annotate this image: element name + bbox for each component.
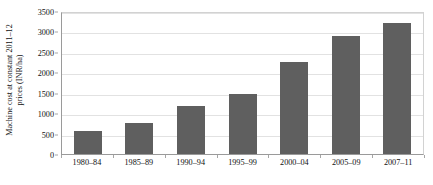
y-axis-title-text: Machine cost at constant 2011–12 prices … [5,24,25,136]
x-axis-tick-label: 1980–84 [61,158,113,167]
y-axis-tick-label: 1500 [38,89,54,98]
y-axis-title: Machine cost at constant 2011–12 prices … [0,0,30,160]
bar-slot [114,13,166,154]
bar-slot [217,13,269,154]
y-axis-tick-mark [55,12,58,13]
x-axis-tick-label: 2000–04 [268,158,320,167]
bar[interactable] [74,131,102,154]
bar-chart-figure: Machine cost at constant 2011–12 prices … [0,0,433,185]
plot-area [61,12,424,155]
x-axis-tick-label: 1995–99 [217,158,269,167]
y-axis-tick-mark [55,52,58,53]
bar-slot [371,13,423,154]
bar-slot [165,13,217,154]
y-axis-tick-mark [55,32,58,33]
y-axis-tick-label: 0 [50,151,54,160]
y-axis-tick-label: 1000 [38,110,54,119]
y-axis-tick-label: 2500 [38,48,54,57]
bar[interactable] [332,36,360,154]
bar[interactable] [280,62,308,154]
x-axis-tick-label: 1990–94 [165,158,217,167]
y-axis-tick-mark [55,73,58,74]
y-axis-tick-label: 2000 [38,69,54,78]
bar-slot [268,13,320,154]
y-axis-title-line-2: prices (INR/ha) [15,24,25,136]
y-axis-tick-label: 3000 [38,28,54,37]
bar[interactable] [229,94,257,154]
y-axis-title-line-1: Machine cost at constant 2011–12 [5,24,14,136]
x-axis-tick-label: 2007–11 [372,158,424,167]
y-axis-tick-mark [55,134,58,135]
y-axis-tick-mark [55,155,58,156]
bar-slot [62,13,114,154]
y-axis-tick-label: 3500 [38,8,54,17]
bar-series [62,13,423,154]
y-axis-tick-mark [55,114,58,115]
x-axis-tick-label: 1985–89 [113,158,165,167]
y-axis-tick-label: 500 [42,130,54,139]
x-axis-tick-mark [424,155,425,158]
bar-slot [320,13,372,154]
x-axis-tick-labels: 1980–841985–891990–941995–992000–042005–… [61,158,424,167]
y-axis-tick-mark [55,93,58,94]
bar[interactable] [383,23,411,154]
y-axis-tick-labels: 0500100015002000250030003500 [28,12,58,155]
bar[interactable] [177,106,205,154]
x-axis-tick-label: 2005–09 [320,158,372,167]
bar[interactable] [125,123,153,154]
